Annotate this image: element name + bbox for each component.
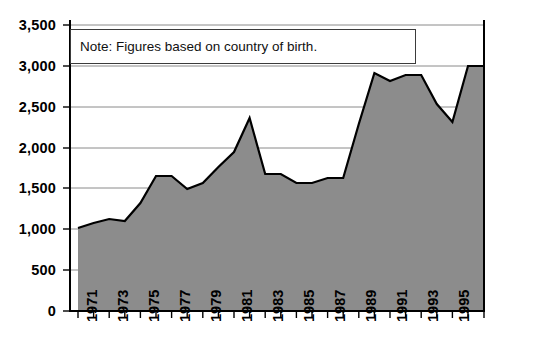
x-tick-label: 1975 (147, 290, 162, 322)
x-tick-label: 1989 (364, 290, 379, 322)
x-tick-label: 1987 (333, 290, 348, 322)
x-tick-label: 1983 (271, 290, 286, 322)
x-tick-label: 1993 (426, 290, 441, 322)
x-tick-label: 1991 (395, 290, 410, 322)
x-tick-label: 1977 (178, 290, 193, 322)
x-tick-label: 1971 (85, 290, 100, 322)
chart-note-box: Note: Figures based on country of birth. (70, 29, 416, 64)
x-tick-label: 1973 (116, 290, 131, 322)
x-tick-label: 1985 (302, 290, 317, 322)
x-tick-label: 1981 (240, 290, 255, 322)
area-chart-figure: 3,500 3,000 2,500 2,000 1,500 1,000 500 … (0, 0, 542, 362)
x-tick-label: 1995 (457, 290, 472, 322)
chart-note-text: Note: Figures based on country of birth. (80, 39, 317, 54)
x-tick-label: 1979 (209, 290, 224, 322)
